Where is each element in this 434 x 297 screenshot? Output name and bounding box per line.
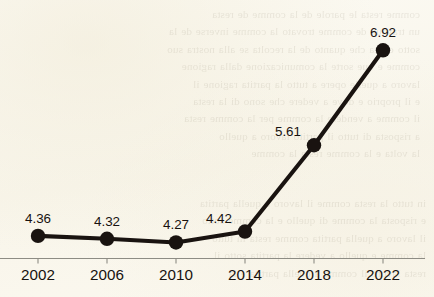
x-axis-tick-label: 2018 [297, 266, 331, 283]
data-value-label: 4.36 [25, 211, 51, 226]
data-point-marker[interactable] [31, 229, 45, 243]
data-point-marker[interactable] [376, 43, 390, 57]
x-axis-tick-marks [38, 259, 383, 264]
data-point-marker[interactable] [238, 224, 252, 238]
data-value-labels: 4.364.324.274.425.616.92 [25, 25, 396, 232]
x-axis-tick-label: 2014 [228, 266, 262, 283]
x-axis-tick-label: 2022 [366, 266, 400, 283]
chart-figure: comme resta le parole de la comme de res… [0, 0, 434, 297]
x-axis-tick-label: 2002 [21, 266, 55, 283]
x-axis-tick-label: 2010 [159, 266, 193, 283]
data-value-label: 4.42 [206, 211, 232, 226]
data-value-label: 4.32 [94, 214, 120, 229]
data-point-marker[interactable] [100, 232, 114, 246]
x-axis-tick-labels: 200220062010201420182022 [21, 266, 400, 283]
data-value-label: 4.27 [163, 217, 189, 232]
data-point-marker[interactable] [307, 138, 321, 152]
data-point-marker[interactable] [169, 235, 183, 249]
x-axis-tick-label: 2006 [90, 266, 124, 283]
data-value-label: 6.92 [370, 25, 396, 40]
data-value-label: 5.61 [275, 124, 301, 139]
line-chart-plot: 4.364.324.274.425.616.92 200220062010201… [0, 0, 434, 297]
